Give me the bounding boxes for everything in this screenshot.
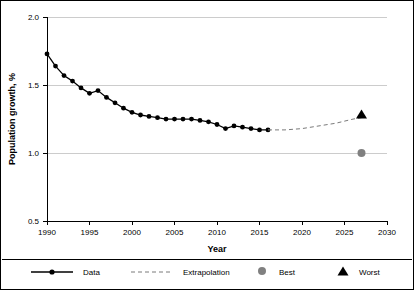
x-tick-label: 2020: [293, 228, 311, 237]
legend-triangle-icon: [338, 267, 349, 276]
legend-dot-icon: [49, 269, 54, 274]
legend-label-extrapolation: Extrapolation: [183, 268, 230, 277]
legend-item-extrapolation: Extrapolation: [131, 268, 230, 277]
legend: Data Extrapolation Best Worst: [31, 267, 381, 278]
x-tick-label: 2000: [123, 228, 141, 237]
x-tick-label: 2015: [251, 228, 269, 237]
y-tick-label: 2.0: [28, 13, 40, 22]
legend-label-best: Best: [279, 268, 296, 277]
population-growth-chart: 0.5 1.0 1.5 2.0 1990 1995 2000 2005 2010…: [1, 1, 413, 289]
y-axis-ticks: 0.5 1.0 1.5 2.0: [28, 13, 47, 226]
legend-item-best: Best: [258, 267, 296, 277]
legend-item-worst: Worst: [338, 267, 381, 278]
best-point-marker: [358, 149, 366, 157]
y-axis-title: Population growth, %: [7, 73, 17, 165]
x-tick-label: 1995: [81, 228, 99, 237]
chart-container: 0.5 1.0 1.5 2.0 1990 1995 2000 2005 2010…: [0, 0, 414, 290]
y-tick-label: 1.5: [28, 81, 40, 90]
y-tick-label: 0.5: [28, 217, 40, 226]
legend-label-data: Data: [83, 268, 100, 277]
plot-area: [47, 17, 387, 221]
x-tick-label: 1990: [38, 228, 56, 237]
x-tick-label: 2005: [166, 228, 184, 237]
x-axis-title: Year: [207, 244, 227, 254]
y-tick-label: 1.0: [28, 149, 40, 158]
legend-item-data: Data: [31, 268, 100, 277]
x-axis-ticks: 1990 1995 2000 2005 2010 2015 2020 2025 …: [38, 221, 396, 237]
x-tick-label: 2030: [378, 228, 396, 237]
legend-label-worst: Worst: [359, 268, 381, 277]
x-tick-label: 2010: [208, 228, 226, 237]
x-tick-label: 2025: [336, 228, 354, 237]
legend-circle-icon: [258, 267, 266, 275]
